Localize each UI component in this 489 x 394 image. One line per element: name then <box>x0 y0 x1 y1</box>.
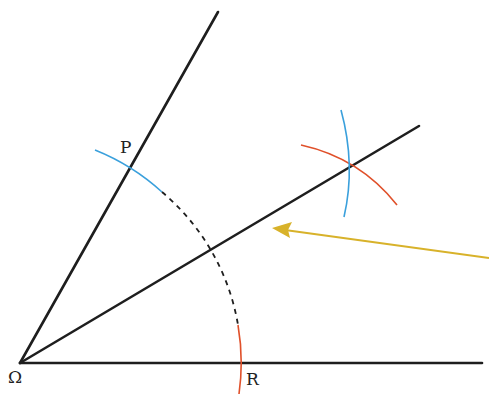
construction-svg <box>0 0 489 394</box>
label-omega: Ω <box>8 369 22 386</box>
arc-at-r <box>238 325 241 394</box>
diagram-canvas: Ω P R <box>0 0 489 394</box>
bisector-ray <box>20 126 419 363</box>
upper-ray <box>20 12 218 363</box>
dashed-arc <box>162 192 238 325</box>
pointer-arrow-shaft <box>285 230 489 258</box>
label-r: R <box>246 371 259 388</box>
label-p: P <box>120 139 131 156</box>
